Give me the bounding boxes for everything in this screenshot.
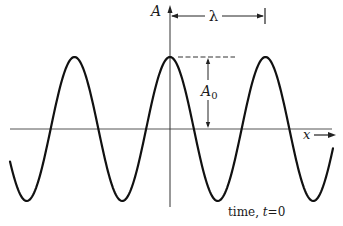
amplitude-arrow-down-icon (206, 122, 210, 128)
time-caption: time, t=0 (228, 205, 285, 219)
x-direction-arrow-icon (328, 132, 336, 138)
amplitude-arrow-up-icon (206, 58, 210, 64)
y-axis-arrow-icon (168, 5, 173, 13)
y-axis-label: A (149, 3, 161, 19)
amplitude-label: A0 (199, 83, 218, 101)
wavelength-arrow-left-icon (171, 14, 178, 19)
wavelength-arrow-right-icon (257, 14, 264, 19)
wave-diagram: λ A0 A x time, t=0 (0, 0, 343, 226)
wavelength-label: λ (209, 7, 219, 25)
x-axis-label: x (303, 127, 311, 142)
